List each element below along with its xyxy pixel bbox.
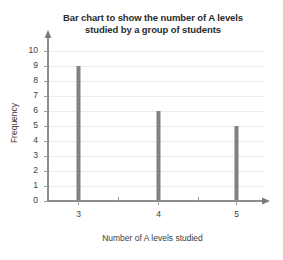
bar-chart-figure: Bar chart to show the number of A levels…	[0, 0, 283, 260]
y-tick-label-1: 1	[22, 181, 38, 190]
y-tick-label-6: 6	[22, 106, 38, 115]
y-tick-label-5: 5	[22, 121, 38, 130]
y-axis-title: Frequency	[9, 83, 19, 163]
x-tick-label-4: 4	[149, 210, 169, 219]
y-tick-label-3: 3	[22, 151, 38, 160]
bar-category-4	[157, 111, 161, 201]
y-tick-label-4: 4	[22, 136, 38, 145]
bar-category-5	[235, 126, 239, 201]
y-axis	[44, 30, 51, 201]
x-tick-label-3: 3	[69, 210, 89, 219]
y-tick-label-2: 2	[22, 166, 38, 175]
bar-category-3	[77, 66, 81, 201]
y-tick-label-10: 10	[22, 46, 38, 55]
y-tick-label-8: 8	[22, 76, 38, 85]
y-tick-label-7: 7	[22, 91, 38, 100]
x-axis-title: Number of A levels studied	[45, 233, 260, 243]
y-axis-arrow-icon	[45, 30, 52, 38]
y-tick-label-9: 9	[22, 61, 38, 70]
y-tick-label-0: 0	[22, 196, 38, 205]
plot-area	[0, 0, 283, 260]
x-axis-arrow-icon	[262, 198, 270, 205]
bars	[77, 66, 239, 201]
x-tick-label-5: 5	[227, 210, 247, 219]
